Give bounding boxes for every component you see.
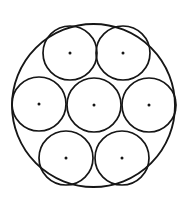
- circle-middle-left-center-dot: [38, 103, 41, 106]
- circle-top-right-center-dot: [122, 52, 125, 55]
- circle-middle-right-center-dot: [148, 104, 151, 107]
- packing-diagram: [0, 0, 193, 207]
- figure-background: [0, 0, 193, 207]
- circle-center-center-dot: [93, 104, 96, 107]
- circle-bottom-left-center-dot: [65, 157, 68, 160]
- circle-packing-figure: [0, 0, 193, 207]
- circle-top-left-center-dot: [69, 52, 72, 55]
- circle-bottom-right-center-dot: [121, 157, 124, 160]
